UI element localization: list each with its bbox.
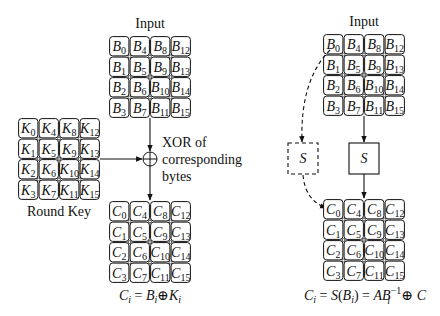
grid-junction xyxy=(169,76,172,79)
grid-junction xyxy=(149,220,152,223)
xor-operator-icon xyxy=(143,152,157,166)
grid-junction xyxy=(342,259,345,262)
right-formula: Ci = S(Bi) = AB−1i ⊕ C xyxy=(304,285,427,306)
grid-junction xyxy=(149,55,152,58)
grid-junction xyxy=(169,55,172,58)
grid-junction xyxy=(149,96,152,99)
grid-junction xyxy=(342,53,345,56)
grid-junction xyxy=(363,53,366,56)
right-input-grid: B0B4B8B12B1B5B9B13B2B6B10B14B3B7B11B15 xyxy=(324,35,405,116)
formula-eq1: = xyxy=(316,288,331,303)
left-output-grid: C0C4C8C12C1C5C9C13C2C6C10C14C3C7C11C15 xyxy=(110,202,191,283)
grid-junction xyxy=(363,94,366,97)
grid-junction xyxy=(128,96,131,99)
formula-eq2: = xyxy=(359,288,374,303)
grid-junction xyxy=(383,259,386,262)
formula-b: K xyxy=(168,288,179,303)
grid-junction xyxy=(149,241,152,244)
sbox-label: S xyxy=(361,151,368,166)
right-output-grid: C0C4C8C12C1C5C9C13C2C6C10C14C3C7C11C15 xyxy=(324,200,405,281)
grid-junction xyxy=(78,178,81,181)
grid-junction xyxy=(383,218,386,221)
grid-junction xyxy=(383,53,386,56)
grid-junction xyxy=(383,94,386,97)
grid-junction xyxy=(58,137,61,140)
grid-junction xyxy=(78,158,81,161)
sbox-dashed-label: S xyxy=(300,151,307,166)
grid-junction xyxy=(342,94,345,97)
grid-junction xyxy=(342,218,345,221)
formula-b2-sub: i xyxy=(387,295,390,306)
formula-op: ⊕ xyxy=(398,288,417,303)
grid-junction xyxy=(169,261,172,264)
grid-junction xyxy=(37,178,40,181)
round-key-label: Round Key xyxy=(27,204,91,219)
grid-junction xyxy=(342,74,345,77)
round-key-grid: K0K4K8K12K1K5K9K13K2K6K10K14K3K7K11K15 xyxy=(19,119,100,200)
formula-op: ⊕ xyxy=(157,288,169,303)
grid-junction xyxy=(149,261,152,264)
grid-junction xyxy=(363,259,366,262)
grid-junction xyxy=(128,241,131,244)
grid-junction xyxy=(169,220,172,223)
grid-junction xyxy=(383,74,386,77)
left-input-label: Input xyxy=(135,16,165,31)
right-input-label: Input xyxy=(349,14,379,29)
formula-b-sub: i xyxy=(178,294,181,305)
grid-junction xyxy=(78,137,81,140)
right-panel: Input B0B4B8B12B1B5B9B13B2B6B10B14B3B7B1… xyxy=(288,14,427,306)
grid-junction xyxy=(383,239,386,242)
aes-diagram: Input B0B4B8B12B1B5B9B13B2B6B10B14B3B7B1… xyxy=(0,0,440,316)
formula-eq: = xyxy=(131,288,146,303)
grid-junction xyxy=(169,96,172,99)
grid-junction xyxy=(37,158,40,161)
grid-junction xyxy=(128,220,131,223)
grid-junction xyxy=(58,158,61,161)
grid-junction xyxy=(128,55,131,58)
formula-a: A xyxy=(373,288,383,303)
left-panel: Input B0B4B8B12B1B5B9B13B2B6B10B14B3B7B1… xyxy=(19,16,242,305)
xor-label-line-1: XOR of xyxy=(162,135,207,150)
xor-label-line-3: bytes xyxy=(162,169,192,184)
grid-junction xyxy=(342,239,345,242)
grid-junction xyxy=(169,241,172,244)
grid-junction xyxy=(128,261,131,264)
xor-label-line-2: corresponding xyxy=(162,152,242,167)
grid-junction xyxy=(363,239,366,242)
left-formula: Ci = Bi⊕Ki xyxy=(119,288,181,305)
grid-junction xyxy=(128,76,131,79)
left-input-grid: B0B4B8B12B1B5B9B13B2B6B10B14B3B7B11B15 xyxy=(110,37,191,118)
formula-c: C xyxy=(417,288,427,303)
sbox-dashed-to-c0-arrow xyxy=(303,175,326,208)
grid-junction xyxy=(37,137,40,140)
grid-junction xyxy=(363,218,366,221)
grid-junction xyxy=(363,74,366,77)
formula-s: S xyxy=(331,288,338,303)
grid-junction xyxy=(58,178,61,181)
grid-junction xyxy=(149,76,152,79)
